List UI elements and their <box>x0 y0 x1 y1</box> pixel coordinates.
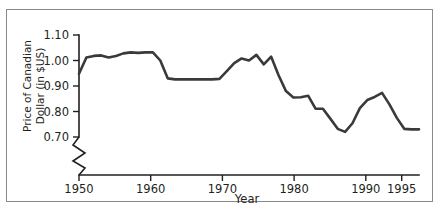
y-axis-title: Price of Canadian Dollar (in $US) <box>21 40 46 132</box>
data-series-line <box>79 52 419 132</box>
xtick-label-0: 1950 <box>64 182 93 196</box>
xtick-label-3: 1980 <box>279 182 308 196</box>
ytick-label-2: 0.90 <box>43 79 69 93</box>
xtick-label-2: 1970 <box>208 182 237 196</box>
xtick-label-1: 1960 <box>136 182 165 196</box>
y-axis-break-icon <box>73 137 85 175</box>
y-axis-title-line1: Price of Canadian <box>21 40 33 132</box>
ytick-label-4: 0.70 <box>43 130 69 144</box>
ytick-label-3: 0.80 <box>43 105 69 119</box>
ytick-label-1: 1.00 <box>43 54 69 68</box>
ytick-label-0: 1.10 <box>43 28 69 42</box>
xtick-label-4: 1990 <box>351 182 380 196</box>
xtick-label-5: 1995 <box>387 182 416 196</box>
y-tick-marks <box>73 35 79 137</box>
line-chart: 1.10 1.00 0.90 0.80 0.70 1950 1960 1970 … <box>7 10 434 203</box>
y-axis-title-line2: Dollar (in $US) <box>34 48 46 125</box>
figure-frame: 1.10 1.00 0.90 0.80 0.70 1950 1960 1970 … <box>6 9 433 202</box>
x-tick-marks <box>79 175 402 181</box>
x-axis-title: Year <box>234 192 260 203</box>
